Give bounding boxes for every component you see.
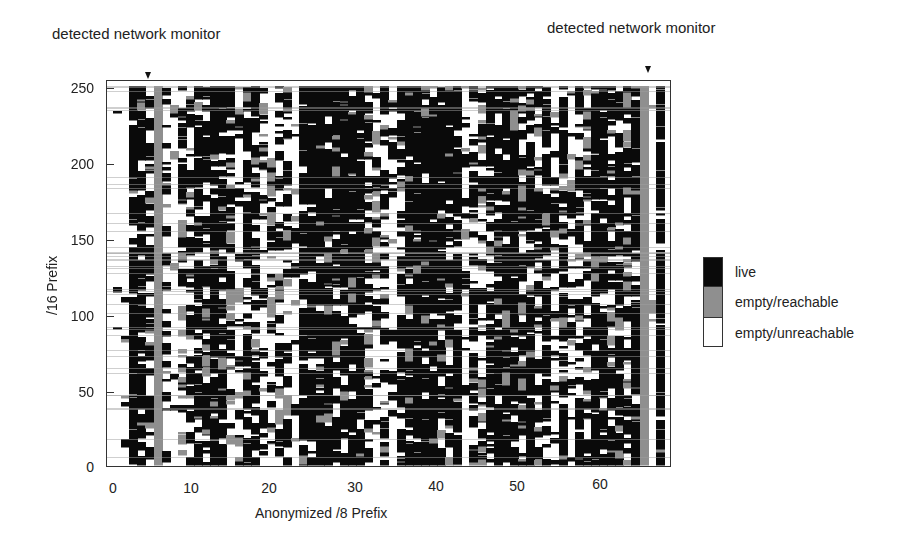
ytick-label: 200 [54, 156, 94, 172]
ytick-mark [107, 164, 114, 165]
x-axis-label: Anonymized /8 Prefix [255, 505, 387, 521]
xtick-label: 50 [502, 478, 532, 494]
legend-label-empty-reachable: empty/reachable [735, 294, 839, 310]
xtick-label: 30 [340, 479, 370, 495]
legend-label-empty-unreachable: empty/unreachable [735, 325, 854, 341]
heatmap-canvas [107, 81, 670, 466]
xtick-label: 0 [98, 480, 128, 496]
ytick-label: 50 [54, 384, 94, 400]
ytick-mark [107, 240, 114, 241]
monitor-marker-icon-right [645, 66, 651, 73]
legend-swatch-empty-unreachable [703, 317, 723, 347]
legend-label-live: live [735, 264, 756, 280]
ytick-label: 100 [54, 308, 94, 324]
y-axis-label: /16 Prefix [44, 256, 60, 315]
xtick-label: 20 [254, 480, 284, 496]
heatmap-plot-area [106, 80, 671, 467]
ytick-label: 150 [54, 232, 94, 248]
xtick-label: 60 [585, 476, 615, 492]
xtick-label: 10 [176, 480, 206, 496]
ytick-mark [107, 88, 114, 89]
annotation-right: detected network monitor [547, 19, 715, 36]
ytick-mark [107, 316, 114, 317]
legend-swatch-live [703, 257, 723, 287]
ytick-label: 250 [54, 80, 94, 96]
ytick-label: 0 [54, 459, 94, 475]
xtick-label: 40 [421, 478, 451, 494]
legend-swatch-empty-reachable [703, 287, 723, 317]
annotation-left: detected network monitor [52, 25, 220, 42]
monitor-marker-icon-left [145, 72, 151, 79]
ytick-mark [107, 392, 114, 393]
